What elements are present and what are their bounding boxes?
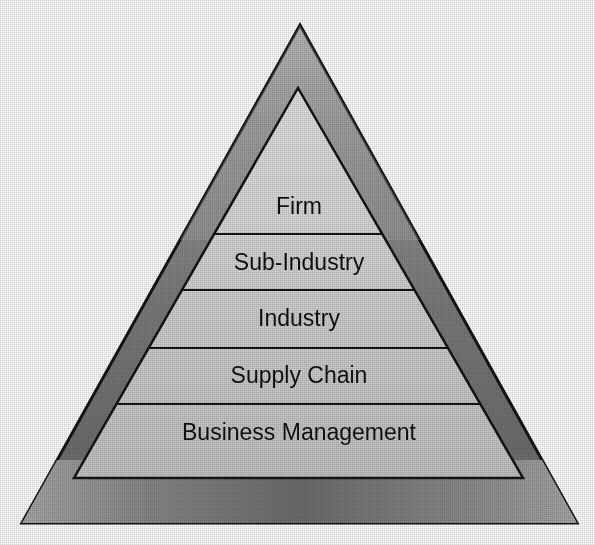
level-label-business-management: Business Management (182, 419, 417, 445)
level-label-sub-industry: Sub-Industry (234, 249, 365, 275)
level-label-industry: Industry (258, 305, 340, 331)
level-label-supply-chain: Supply Chain (231, 362, 368, 388)
level-label-firm: Firm (276, 193, 322, 219)
pyramid-svg-canvas: Firm Sub-Industry Industry Supply Chain … (0, 0, 595, 545)
pyramid-diagram: Firm Sub-Industry Industry Supply Chain … (0, 0, 595, 545)
